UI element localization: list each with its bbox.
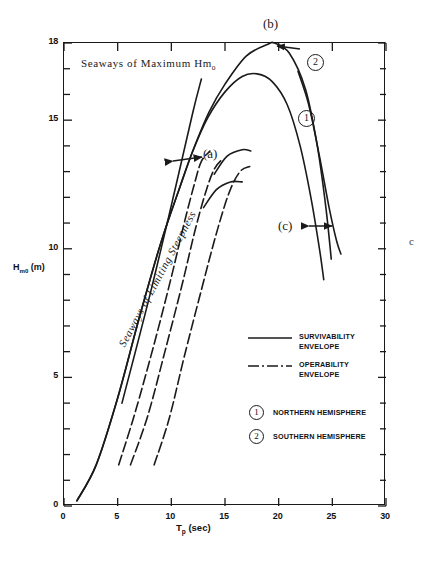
x-axis-title: Tp (sec) bbox=[176, 522, 211, 535]
x-tick-label: 15 bbox=[212, 511, 236, 521]
callout-c: (c) bbox=[278, 218, 292, 234]
annotation-max-hmo: Seaways of Maximum Hmo bbox=[81, 57, 216, 72]
legend-swatch-dash-dot bbox=[248, 360, 292, 372]
y-tick-label: 5 bbox=[32, 370, 58, 380]
y-tick-label: 10 bbox=[32, 242, 58, 252]
legend-swatch-solid bbox=[248, 332, 292, 344]
curve-badge-southern: 2 bbox=[307, 54, 324, 71]
y-tick-label: 0 bbox=[32, 499, 58, 509]
scan-artifact-mark: c bbox=[409, 235, 414, 247]
legend-label-operability-line2: ENVELOPE bbox=[299, 370, 339, 379]
hemisphere-badge-southern: 2 bbox=[249, 429, 264, 444]
hemisphere-item-southern: 2 SOUTHERN HEMISPHERE bbox=[249, 429, 366, 444]
callout-b: (b) bbox=[263, 16, 278, 32]
y-tick-label: 15 bbox=[32, 113, 58, 123]
wave-envelope-chart: Seaways of Maximum Hmo Seaways of Limiti… bbox=[0, 0, 427, 561]
curve-badge-northern: 1 bbox=[298, 110, 315, 127]
x-tick-label: 30 bbox=[373, 511, 397, 521]
y-tick-label: 18 bbox=[32, 36, 58, 46]
hemisphere-label-southern: SOUTHERN HEMISPHERE bbox=[273, 432, 366, 441]
hemisphere-key: 1 NORTHERN HEMISPHERE 2 SOUTHERN HEMISPH… bbox=[249, 405, 366, 453]
hemisphere-badge-northern: 1 bbox=[249, 405, 264, 420]
x-axis-title-unit: (sec) bbox=[186, 522, 211, 533]
y-axis-title: Hm0 (m) bbox=[13, 262, 45, 274]
x-tick-label: 5 bbox=[105, 511, 129, 521]
legend-label-survivability-line1: SURVIVABILITY bbox=[299, 332, 355, 341]
legend-label-survivability-line2: ENVELOPE bbox=[299, 342, 339, 351]
legend-label-operability: OPERABILITY ENVELOPE bbox=[299, 360, 349, 379]
plot-area: Seaways of Maximum Hmo Seaways of Limiti… bbox=[63, 42, 385, 505]
legend-item-operability: OPERABILITY ENVELOPE bbox=[248, 360, 355, 379]
x-tick-label: 0 bbox=[51, 511, 75, 521]
callout-a: (a) bbox=[203, 146, 217, 162]
hemisphere-label-northern: NORTHERN HEMISPHERE bbox=[273, 408, 366, 417]
legend-label-survivability: SURVIVABILITY ENVELOPE bbox=[299, 332, 355, 351]
legend-item-survivability: SURVIVABILITY ENVELOPE bbox=[248, 332, 355, 351]
annotation-max-hmo-subscript: o bbox=[212, 63, 216, 72]
hemisphere-item-northern: 1 NORTHERN HEMISPHERE bbox=[249, 405, 366, 420]
annotation-max-hmo-text: Seaways of Maximum Hm bbox=[81, 57, 212, 69]
legend-label-operability-line1: OPERABILITY bbox=[299, 360, 349, 369]
x-tick-label: 25 bbox=[319, 511, 343, 521]
x-tick-label: 20 bbox=[266, 511, 290, 521]
legend: SURVIVABILITY ENVELOPE OPERABILITY ENVEL… bbox=[248, 332, 355, 388]
y-axis-title-unit: (m) bbox=[28, 262, 45, 272]
x-tick-label: 10 bbox=[158, 511, 182, 521]
